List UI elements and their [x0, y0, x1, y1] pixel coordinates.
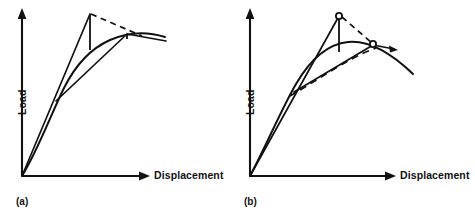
panel-b-secant-to-peak — [250, 16, 339, 176]
panel-b-x-axis-label: Displacement — [400, 170, 469, 181]
panel-b-plot — [238, 0, 475, 220]
panel-a: Load Displacement (a) — [0, 0, 237, 220]
panel-a-caption: (a) — [16, 197, 28, 207]
panel-b-second-unload-arrowhead — [389, 46, 398, 53]
panel-b-y-axis-arrowhead — [246, 8, 255, 19]
panel-b-load-curve — [250, 42, 413, 176]
panel-a-y-axis-label: Load — [17, 90, 28, 115]
panel-b: Load Displacement (b) — [238, 0, 475, 220]
panel-b-y-axis-label: Load — [245, 90, 256, 115]
panel-a-load-curve — [22, 33, 165, 176]
panel-b-peak-marker — [336, 13, 342, 19]
panel-b-peak-unload-dashed — [342, 17, 372, 43]
panel-b-caption: (b) — [244, 197, 257, 207]
panel-a-x-axis-arrowhead — [139, 172, 150, 181]
panel-a-y-axis-arrowhead — [18, 8, 27, 19]
panel-a-x-axis-label: Displacement — [154, 170, 223, 181]
panel-b-second-point-marker — [370, 41, 376, 47]
figure-root: Load Displacement (a) — [0, 0, 475, 220]
panel-a-secant-to-peak — [22, 14, 90, 176]
panel-a-peak-unload-dashed — [91, 14, 142, 36]
panel-b-x-axis-arrowhead — [385, 172, 396, 181]
panel-a-plot — [0, 0, 237, 220]
